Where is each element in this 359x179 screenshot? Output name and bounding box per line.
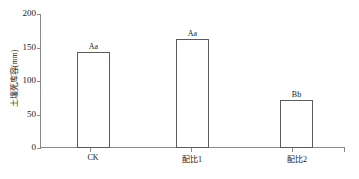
x-category-label-ck: CK [87, 153, 98, 162]
bar-annotation: Aa [188, 29, 197, 38]
y-tick-label: 200 [23, 8, 37, 18]
x-category-label-peibi2: 配比2 [287, 153, 307, 164]
x-category-label-peibi1: 配比1 [182, 153, 202, 164]
x-tick-mark [90, 148, 91, 152]
plot-area: 0 50 100 150 200 Aa Aa Bb [40, 14, 345, 148]
bar-peibi1: Aa [176, 39, 209, 148]
bar-annotation: Aa [89, 42, 98, 51]
bar-peibi2: Bb [280, 100, 313, 148]
y-axis-title: 土壤死库容(mm) [8, 19, 19, 139]
y-tick-mark [37, 115, 41, 116]
y-tick-mark [37, 148, 41, 149]
bar-annotation: Bb [292, 90, 301, 99]
y-tick-mark [37, 14, 41, 15]
y-tick-label: 100 [23, 75, 37, 85]
x-tick-mark [191, 148, 192, 152]
x-tick-mark [344, 148, 345, 152]
y-tick-mark [37, 48, 41, 49]
bar-chart: 土壤死库容(mm) 0 50 100 150 200 [0, 0, 359, 179]
y-tick-label: 150 [23, 42, 37, 52]
bar-ck: Aa [77, 52, 110, 148]
x-tick-mark [292, 148, 293, 152]
y-tick-mark [37, 81, 41, 82]
y-tick-label: 0 [32, 142, 37, 152]
y-tick-label: 50 [27, 109, 36, 119]
